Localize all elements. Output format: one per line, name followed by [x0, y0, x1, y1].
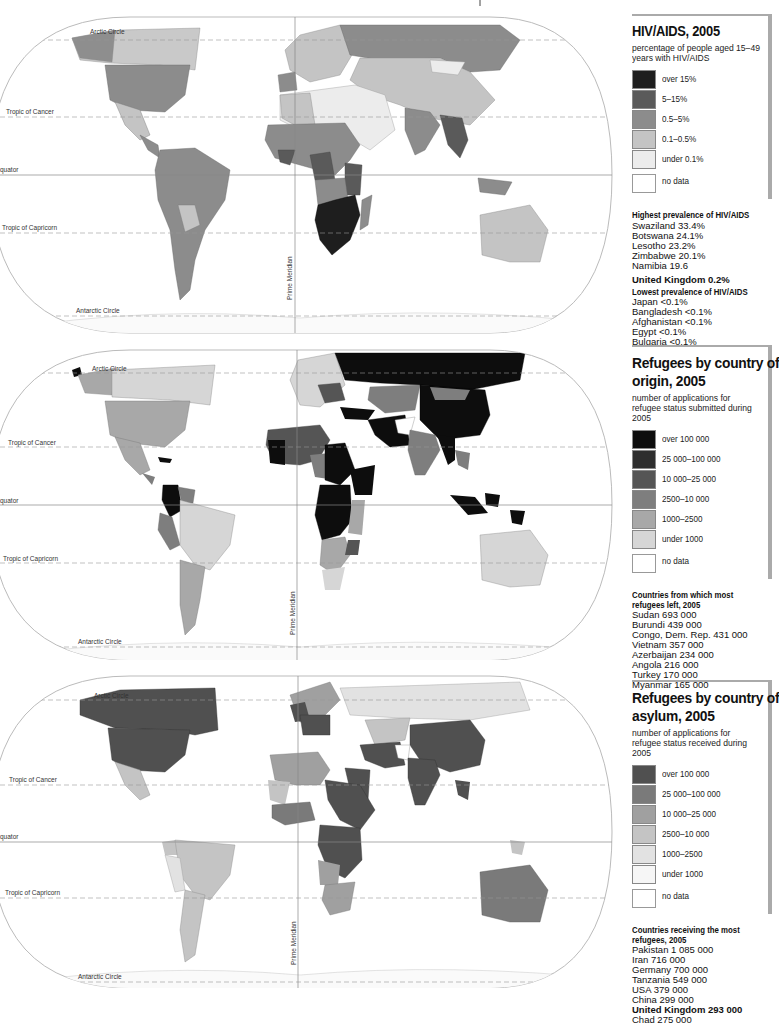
tropic-of-capricorn-label: Tropic of Capricorn — [5, 889, 60, 897]
refugees-asylum-map: Arctic Circle Tropic of Cancer quator Tr… — [0, 660, 620, 988]
prime-meridian-label: Prime Meridian — [289, 591, 296, 635]
asylum-key-1000-2500: 1000–2500 — [632, 844, 768, 864]
antarctic-circle-label: Antarctic Circle — [78, 973, 122, 980]
asylum-key-2500-10000: 2500–10 000 — [632, 824, 768, 844]
origin-key-2500-10000: 2500–10 000 — [632, 489, 768, 509]
hiv-key-over15: over 15% — [632, 69, 768, 89]
swatch-no-data — [632, 174, 656, 193]
refugees-origin-map: Arctic Circle Tropic of Cancer quator Tr… — [0, 335, 620, 660]
origin-key-1000-2500: 1000–2500 — [632, 509, 768, 529]
asylum-stats-header: Countries receiving the most refugees, 2… — [632, 926, 761, 945]
asylum-key-under-1000: under 1000 — [632, 864, 768, 884]
asylum-key-no-data: no data — [632, 884, 768, 908]
swatch-0-5-5 — [632, 110, 656, 129]
asylum-key-over-100000: over 100 000 — [632, 764, 768, 784]
equator-label: quator — [0, 833, 19, 841]
swatch-0-1-0-5 — [632, 130, 656, 149]
origin-stats: Countries from which most refugees left,… — [632, 591, 772, 690]
hiv-key-0-1-0-5: 0.1–0.5% — [632, 129, 768, 149]
origin-key-no-data: no data — [632, 549, 768, 573]
arctic-circle-label: Arctic Circle — [94, 692, 129, 699]
tropic-of-capricorn-label: Tropic of Capricorn — [2, 224, 57, 232]
origin-title-line2: origin, 2005 — [632, 373, 757, 389]
russia-region — [340, 682, 530, 720]
hiv-map: Arctic Circle Tropic of Cancer quator Tr… — [0, 0, 620, 335]
north-africa-region — [270, 752, 330, 785]
tropic-of-cancer-label: Tropic of Cancer — [9, 776, 58, 784]
hiv-key-0-5-5: 0.5–5% — [632, 109, 768, 129]
swatch-under-0-1 — [632, 150, 656, 169]
highest-prevalence-header: Highest prevalence of HIV/AIDS — [632, 211, 761, 221]
asylum-legend-box: Refugees by country of asylum, 2005 numb… — [632, 680, 772, 914]
hiv-legend: HIV/AIDS, 2005 percentage of people aged… — [632, 14, 772, 347]
tropic-of-cancer-label: Tropic of Cancer — [6, 108, 55, 116]
equator-label: quator — [0, 497, 19, 505]
origin-subtitle: number of applications for refugee statu… — [632, 393, 761, 423]
tropic-of-capricorn-label: Tropic of Capricorn — [3, 555, 58, 563]
hiv-legend-box: HIV/AIDS, 2005 percentage of people aged… — [632, 14, 772, 199]
stat-row: Zimbabwe 20.1% — [632, 251, 772, 261]
asylum-stats: Countries receiving the most refugees, 2… — [632, 926, 772, 1025]
origin-world-map: Arctic Circle Tropic of Cancer quator Tr… — [0, 335, 620, 660]
origin-key-10000-25000: 10 000–25 000 — [632, 469, 768, 489]
origin-stats-header: Countries from which most refugees left,… — [632, 591, 761, 610]
hiv-key-no-data: no data — [632, 169, 768, 193]
hiv-key-under-0-1: under 0.1% — [632, 149, 768, 169]
asylum-key-10000-25000: 10 000–25 000 — [632, 804, 768, 824]
swatch-over-15 — [632, 70, 656, 89]
hiv-stats: Highest prevalence of HIV/AIDS Swaziland… — [632, 211, 772, 347]
origin-title-line1: Refugees by country of — [632, 355, 757, 371]
asylum-subtitle: number of applications for refugee statu… — [632, 728, 761, 758]
origin-legend: Refugees by country of origin, 2005 numb… — [632, 345, 772, 690]
germany-region — [300, 715, 330, 735]
hiv-subtitle: percentage of people aged 15–49 years wi… — [632, 43, 761, 63]
east-africa-region — [345, 163, 362, 195]
prime-meridian-label: Prime Meridian — [290, 921, 297, 965]
antarctic-circle-label: Antarctic Circle — [76, 307, 120, 314]
hiv-world-map: Arctic Circle Tropic of Cancer quator Tr… — [0, 0, 620, 335]
tropic-of-cancer-label: Tropic of Cancer — [8, 439, 57, 447]
stat-row: Chad 275 000 — [632, 1015, 772, 1025]
stat-row: Botswana 24.1% — [632, 231, 772, 241]
asylum-title-line2: asylum, 2005 — [632, 708, 757, 724]
equator-label: quator — [0, 166, 19, 174]
prime-meridian-label: Prime Meridian — [286, 256, 293, 300]
asylum-legend: Refugees by country of asylum, 2005 numb… — [632, 680, 772, 1025]
origin-key-over-100000: over 100 000 — [632, 429, 768, 449]
antarctic-circle-label: Antarctic Circle — [78, 638, 122, 645]
origin-legend-box: Refugees by country of origin, 2005 numb… — [632, 345, 772, 579]
stat-row: Lesotho 23.2% — [632, 241, 772, 251]
swatch-5-15 — [632, 90, 656, 109]
arctic-circle-label: Arctic Circle — [92, 365, 127, 372]
stat-row: Swaziland 33.4% — [632, 221, 772, 231]
uk-stat: United Kingdom 0.2% — [632, 275, 772, 285]
asylum-world-map: Arctic Circle Tropic of Cancer quator Tr… — [0, 660, 620, 988]
asylum-title-line1: Refugees by country of — [632, 690, 757, 706]
lowest-prevalence-header: Lowest prevalence of HIV/AIDS — [632, 288, 761, 298]
hiv-key-5-15: 5–15% — [632, 89, 768, 109]
asylum-key-25000-100000: 25 000–100 000 — [632, 784, 768, 804]
hiv-title: HIV/AIDS, 2005 — [632, 24, 757, 39]
stat-row: Namibia 19.6 — [632, 261, 772, 271]
origin-key-under-1000: under 1000 — [632, 529, 768, 549]
origin-key-25000-100000: 25 000–100 000 — [632, 449, 768, 469]
arctic-circle-label: Arctic Circle — [90, 28, 125, 35]
